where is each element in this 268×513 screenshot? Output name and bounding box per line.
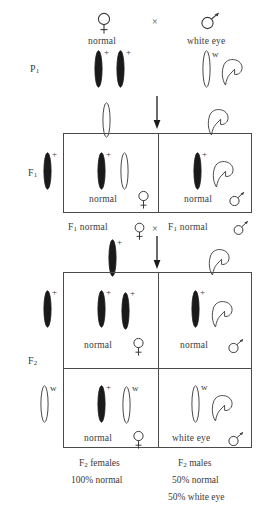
allele-label-plus: + [130, 289, 135, 298]
allele-label-plus: + [106, 383, 111, 392]
summary-females-label: F2 females [79, 458, 120, 469]
generation-label-f2: F2 [28, 355, 37, 367]
allele-label-plus: + [104, 48, 109, 57]
allele-label-w: w [50, 384, 57, 393]
f2-cell4-phenotype: white eye [172, 433, 210, 443]
chromosome-y-hook [218, 58, 244, 86]
female-symbol-icon [96, 12, 112, 36]
female-symbol-icon [137, 190, 150, 211]
male-symbol-icon [227, 337, 246, 355]
f2-box-horizontal-divider [63, 368, 252, 369]
summary-males-ratio-white: 50% white eye [168, 492, 224, 502]
p1-female-phenotype: normal [88, 36, 116, 46]
summary-males-ratio-normal: 50% normal [172, 475, 219, 485]
chromosome-x-open [119, 152, 130, 190]
allele-label-plus: + [126, 48, 131, 57]
allele-label-plus: + [52, 150, 57, 159]
allele-label-w: w [132, 384, 139, 393]
summary-females-ratio: 100% normal [71, 475, 122, 485]
gamete-chromosome-x-open [39, 385, 50, 423]
generation-label-p1: P1 [30, 63, 39, 75]
chromosome-y-hook [209, 160, 235, 188]
f1-female-phenotype: normal [89, 194, 117, 204]
summary-males-label: F2 males [178, 458, 211, 469]
male-symbol-icon [227, 430, 246, 448]
arrow-down-f1-to-f2 [152, 236, 162, 270]
chromosome-y-hook [208, 394, 234, 422]
genetics-cross-diagram: P1 × normal white eye + + [0, 0, 268, 513]
male-symbol-icon [232, 219, 251, 237]
f1-box-vertical-divider [158, 133, 159, 213]
cropped-caption-text [6, 0, 8, 7]
allele-label-plus: + [117, 238, 122, 247]
chromosome-x-filled [93, 50, 104, 88]
male-symbol-icon [228, 190, 247, 208]
arrow-down-p1-to-f1 [152, 96, 162, 130]
chromosome-y-hook [208, 300, 234, 328]
f1-male-phenotype: normal [184, 194, 212, 204]
generation-label-f1: F1 [28, 167, 37, 179]
f2-cell2-phenotype: normal [180, 340, 208, 350]
chromosome-x-open [121, 386, 132, 424]
allele-label-plus: + [106, 288, 111, 297]
female-symbol-icon [133, 222, 146, 242]
gamete-chromosome-y-hook [204, 108, 230, 136]
allele-label-plus: + [52, 288, 57, 297]
allele-label-plus: + [200, 288, 205, 297]
cross-symbol-f1: × [152, 223, 158, 234]
female-symbol-icon [132, 430, 145, 451]
f2-cell1-phenotype: normal [84, 340, 112, 350]
f2-box-vertical-divider [158, 272, 159, 448]
chromosome-x-open [201, 50, 212, 88]
f1-cross-female-label: F1 normal [68, 222, 108, 233]
allele-label-plus: + [202, 150, 207, 159]
female-symbol-icon [132, 337, 145, 358]
cross-symbol-p1: × [152, 16, 158, 27]
chromosome-x-open [190, 385, 201, 423]
f2-cell3-phenotype: normal [84, 433, 112, 443]
chromosome-x-filled [115, 50, 126, 88]
p1-male-phenotype: white eye [187, 36, 225, 46]
allele-label-w: w [201, 383, 208, 392]
f1-cross-male-label: F1 normal [168, 222, 208, 233]
allele-label-plus: + [106, 150, 111, 159]
male-symbol-icon [200, 11, 222, 31]
